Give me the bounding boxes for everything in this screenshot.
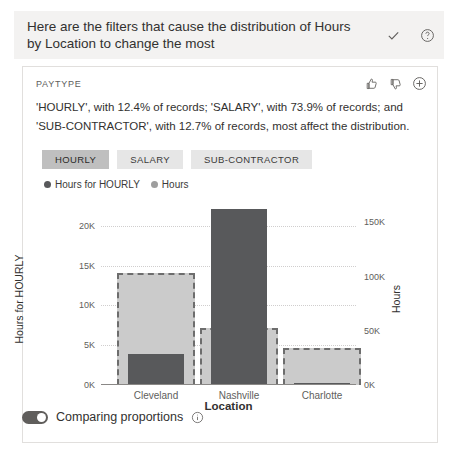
y-axis-right-tick: 0K bbox=[364, 380, 375, 390]
legend-item-hours[interactable]: Hours bbox=[151, 179, 189, 190]
filter-chip-sub-contractor[interactable]: SUB-CONTRACTOR bbox=[191, 150, 312, 169]
legend-swatch-icon bbox=[44, 181, 51, 188]
card-actions bbox=[363, 75, 428, 92]
insight-header: Here are the filters that cause the dist… bbox=[14, 11, 444, 59]
y-axis-right-tick: 50K bbox=[364, 326, 380, 336]
thumbs-down-icon[interactable] bbox=[387, 75, 404, 92]
y-axis-left-tick: 0K bbox=[84, 380, 95, 390]
legend-label: Hours bbox=[162, 179, 189, 190]
filter-chip-sub-contractor-label: SUB-CONTRACTOR bbox=[204, 154, 299, 165]
y-axis-left-tick: 15K bbox=[79, 261, 95, 271]
check-icon[interactable] bbox=[376, 11, 410, 59]
card-description: 'HOURLY', with 12.4% of records; 'SALARY… bbox=[23, 89, 437, 136]
filter-chip-hourly-label: HOURLY bbox=[55, 154, 96, 165]
card-header: PAYTYPE bbox=[23, 67, 437, 89]
y-axis-right-tick: 150K bbox=[364, 217, 385, 227]
bar-hours-charlotte[interactable] bbox=[283, 348, 361, 385]
filter-chip-salary-label: SALARY bbox=[130, 154, 170, 165]
bar-hours-for-hourly-cleveland[interactable] bbox=[128, 354, 184, 385]
chart-legend: Hours for HOURLY Hours bbox=[23, 169, 437, 190]
comparing-proportions-label: Comparing proportions bbox=[56, 410, 183, 424]
key-influencer-chart: Hours for HOURLY Hours bbox=[23, 196, 437, 401]
y-axis-left-tick: 20K bbox=[79, 221, 95, 231]
y-axis-right-title: Hours bbox=[390, 284, 402, 312]
header-title: Here are the filters that cause the dist… bbox=[14, 18, 376, 52]
comparing-proportions-toggle[interactable] bbox=[22, 411, 48, 424]
legend-item-hours-for-hourly[interactable]: Hours for HOURLY bbox=[44, 179, 140, 190]
filter-chip-salary[interactable]: SALARY bbox=[117, 150, 183, 169]
plot-area: 20K 15K 10K 5K 0K 150K 100K 50K 0K Cleve… bbox=[101, 206, 356, 385]
help-circle-icon[interactable] bbox=[410, 11, 444, 59]
filter-chip-group: HOURLY SALARY SUB-CONTRACTOR bbox=[23, 136, 437, 169]
y-axis-right-tick: 100K bbox=[364, 272, 385, 282]
comparing-proportions-row: Comparing proportions bbox=[22, 410, 204, 424]
legend-swatch-icon bbox=[151, 181, 158, 188]
bar-hours-for-hourly-nashville[interactable] bbox=[211, 209, 267, 385]
y-axis-left-tick: 10K bbox=[79, 300, 95, 310]
screen-root: Here are the filters that cause the dist… bbox=[0, 0, 460, 461]
legend-label: Hours for HOURLY bbox=[55, 179, 140, 190]
y-axis-left-tick: 5K bbox=[84, 340, 95, 350]
influencer-card: PAYTYPE bbox=[22, 66, 438, 443]
filter-chip-hourly[interactable]: HOURLY bbox=[42, 150, 109, 169]
thumbs-up-icon[interactable] bbox=[363, 75, 380, 92]
x-axis-line bbox=[101, 384, 356, 385]
toggle-knob bbox=[37, 413, 46, 422]
plus-circle-icon[interactable] bbox=[411, 75, 428, 92]
y-axis-left-title: Hours for HOURLY bbox=[13, 254, 25, 343]
info-circle-icon[interactable] bbox=[191, 411, 204, 424]
